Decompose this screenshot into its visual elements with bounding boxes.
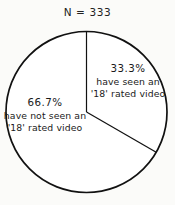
slice-desc-not-seen-line1: have not seen an bbox=[2, 110, 88, 122]
slice-label-not-seen: 66.7% have not seen an '18' rated video bbox=[2, 96, 88, 134]
slice-label-seen: 33.3% have seen an '18' rated video bbox=[88, 62, 168, 100]
slice-desc-seen-line1: have seen an bbox=[88, 76, 168, 88]
slice-percent-seen: 33.3% bbox=[88, 62, 168, 74]
slice-desc-not-seen-line2: '18' rated video bbox=[2, 122, 88, 134]
pie-chart-figure: N = 333 33.3% have seen an '18' rated vi… bbox=[0, 0, 175, 205]
slice-percent-not-seen: 66.7% bbox=[2, 96, 88, 108]
slice-desc-seen-line2: '18' rated video bbox=[88, 88, 168, 100]
